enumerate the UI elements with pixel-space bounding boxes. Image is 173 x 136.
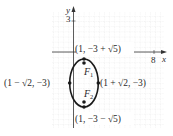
label-top-vertex: (1, −3 + √5) <box>75 44 121 55</box>
focus-f2-point <box>82 100 86 104</box>
label-right-vertex: (1 + √2, −3) <box>100 78 146 89</box>
x-tick-label: 8 <box>151 55 156 65</box>
ellipse-diagram: y 3 8 x F1 F2 (1, −3 + √5) (1, −3 − √5) … <box>0 0 173 136</box>
label-bottom-vertex: (1, −3 − √5) <box>75 114 121 125</box>
y-tick-label: 3 <box>66 14 71 24</box>
focus-f1-point <box>82 61 86 65</box>
y-axis-arrow-icon <box>72 6 76 12</box>
vertex-bottom-point <box>82 105 86 109</box>
vertex-left-point <box>68 81 72 85</box>
x-axis-label: x <box>161 54 166 64</box>
grid <box>52 12 164 128</box>
label-left-vertex: (1 − √2, −3) <box>4 78 50 89</box>
vertex-top-point <box>82 57 86 61</box>
